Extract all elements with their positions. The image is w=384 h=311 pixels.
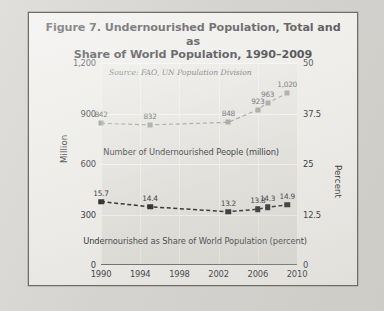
data-point-label: 848: [222, 109, 235, 118]
x-axis-tick-label: 1994: [130, 269, 151, 279]
data-point-marker: [99, 121, 104, 126]
data-point-marker: [147, 204, 153, 210]
y2-axis-tick-label: 25: [303, 159, 313, 169]
y2-axis-title: Percent: [333, 165, 343, 198]
data-point-marker: [98, 199, 104, 205]
x-axis-tick-label: 2006: [248, 269, 269, 279]
data-point-label: 842: [94, 110, 107, 119]
x-axis-tick-label: 2010: [287, 269, 308, 279]
data-point-label: 15.7: [93, 189, 108, 198]
series-name-label: Number of Undernourished People (million…: [103, 147, 279, 157]
data-point-marker: [148, 122, 153, 127]
figure-title: Figure 7. Undernourished Population, Tot…: [39, 21, 347, 62]
y-axis-title: Million: [59, 135, 69, 163]
data-point-label: 1,020: [277, 80, 297, 89]
y-axis-tick-label: 600: [81, 159, 96, 169]
y2-axis-tick-label: 37.5: [303, 109, 321, 119]
data-point-label: 832: [143, 112, 156, 121]
data-point-label: 14.9: [280, 192, 295, 201]
gridline-vertical: [297, 63, 298, 265]
x-axis-tick-label: 1998: [169, 269, 190, 279]
data-point-marker: [265, 100, 270, 105]
data-point-marker: [226, 209, 232, 215]
series-name-label: Undernourished as Share of World Populat…: [83, 236, 307, 246]
y-axis-tick-label: 1,200: [73, 58, 96, 68]
plot-area: Source: FAO, UN Population Division 8428…: [101, 63, 297, 265]
y2-axis-tick-label: 12.5: [303, 210, 321, 220]
x-axis-tick-label: 2002: [208, 269, 229, 279]
data-point-marker: [284, 202, 290, 208]
x-axis-tick-label: 1990: [91, 269, 112, 279]
data-point-label: 13.2: [221, 199, 236, 208]
data-point-marker: [285, 91, 290, 96]
data-point-label: 14.4: [142, 194, 157, 203]
figure-title-line-1: Figure 7. Undernourished Population, Tot…: [45, 21, 340, 48]
data-point-marker: [265, 204, 271, 210]
data-point-label: 14.3: [260, 194, 275, 203]
data-point-marker: [255, 107, 260, 112]
data-point-marker: [255, 206, 261, 212]
data-point-label: 963: [261, 90, 274, 99]
y-axis-tick-label: 300: [81, 210, 96, 220]
figure-container: Figure 7. Undernourished Population, Tot…: [28, 12, 358, 286]
scanned-book-page: Table 5. Undernourished Populationin the…: [0, 0, 384, 311]
data-point-marker: [226, 120, 231, 125]
y2-axis-tick-label: 50: [303, 58, 313, 68]
